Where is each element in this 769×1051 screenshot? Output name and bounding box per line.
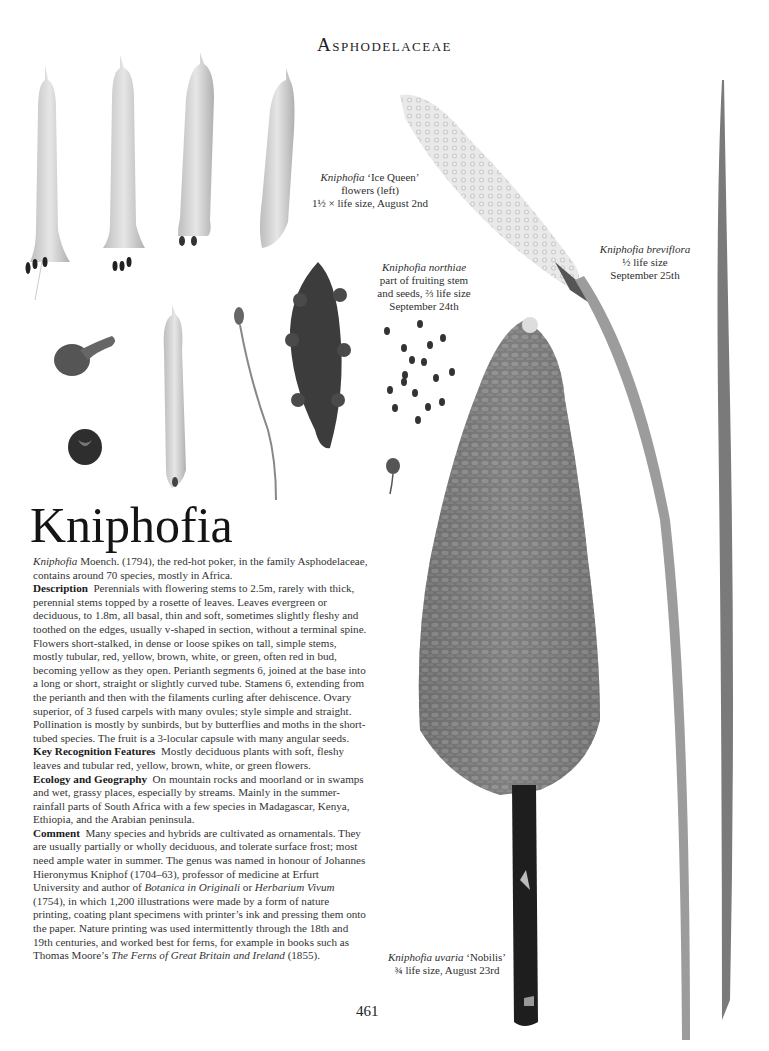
caption-species: Kniphofia breviflora: [600, 243, 690, 255]
genus-title: Kniphofia: [30, 497, 233, 553]
comment-text: (1855).: [285, 949, 320, 961]
caption-line: ¾ life size, August 23rd: [372, 964, 522, 977]
opened-flower: [164, 305, 186, 488]
caption-northiae: Kniphofia northiae part of fruiting stem…: [360, 261, 488, 313]
caption-ice-queen: Kniphofia ‘Ice Queen’ flowers (left) 1½ …: [290, 171, 450, 210]
caption-line: ½ life size: [590, 256, 700, 269]
ice-queen-flower-2: [103, 55, 145, 271]
book-title: The Ferns of Great Britain and Ireland: [111, 949, 285, 961]
uvaria-nobilis-spike: [419, 317, 600, 1026]
section-heading: Comment: [33, 827, 80, 839]
section-heading: Description: [33, 582, 88, 594]
intro-paragraph: Kniphofia Moench. (1794), the red-hot po…: [33, 555, 368, 582]
section-heading: Key Recognition Features: [33, 745, 155, 757]
comment-text: or: [240, 881, 255, 893]
section-text: Perennials with flowering stems to 2.5m,…: [33, 582, 366, 744]
book-title: Botanica in Originali: [145, 881, 241, 893]
section-comment: Comment Many species and hybrids are cul…: [33, 827, 368, 963]
intro-genus: Kniphofia: [33, 555, 77, 567]
section-ecology: Ecology and Geography On mountain rocks …: [33, 773, 368, 827]
caption-line: 1½ × life size, August 2nd: [290, 197, 450, 210]
section-description: Description Perennials with flowering st…: [33, 582, 368, 745]
breviflora-leaf: [718, 80, 734, 1020]
caption-line: part of fruiting stem: [360, 274, 488, 287]
page-number: 461: [356, 1003, 379, 1020]
caption-line: and seeds, ⅔ life size: [360, 287, 488, 300]
northiae-seeds: [384, 320, 455, 424]
pistil: [234, 307, 276, 500]
section-heading: Ecology and Geography: [33, 773, 147, 785]
caption-cultivar: ‘Ice Queen’: [367, 171, 419, 183]
caption-species: Kniphofia: [321, 171, 365, 183]
caption-breviflora: Kniphofia breviflora ½ life size Septemb…: [590, 243, 700, 282]
caption-uvaria: Kniphofia uvaria ‘Nobilis’ ¾ life size, …: [372, 951, 522, 977]
seed-capsule: [54, 336, 115, 376]
northiae-single-capsule: [386, 458, 400, 494]
northiae-fruiting-stem: [285, 262, 351, 448]
family-header: Asphodelaceae: [0, 34, 769, 56]
caption-line: September 25th: [590, 269, 700, 282]
ice-queen-flower-1: [26, 65, 71, 300]
caption-line: September 24th: [360, 300, 488, 313]
caption-cultivar: ‘Nobilis’: [466, 951, 506, 963]
intro-text: Moench. (1794), the red-hot poker, in th…: [33, 555, 367, 581]
caption-species: Kniphofia northiae: [382, 261, 466, 273]
caption-species: Kniphofia uvaria: [388, 951, 463, 963]
seed-capsule-section: [68, 429, 102, 465]
article-body: Kniphofia Moench. (1794), the red-hot po…: [33, 555, 368, 963]
caption-line: flowers (left): [290, 184, 450, 197]
section-key-features: Key Recognition Features Mostly deciduou…: [33, 745, 368, 772]
book-title: Herbarium Vivum: [255, 881, 335, 893]
ice-queen-flower-3: [178, 52, 214, 246]
ice-queen-bud: [260, 68, 295, 248]
